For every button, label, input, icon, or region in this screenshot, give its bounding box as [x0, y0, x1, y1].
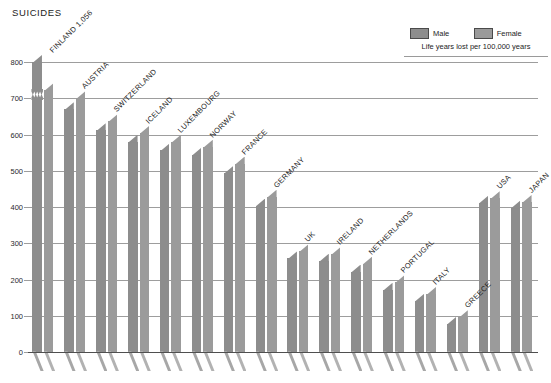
- bar-perspective-foot: [235, 351, 246, 371]
- bar-top-bevel: [128, 135, 138, 143]
- bar-perspective-foot: [511, 351, 522, 371]
- bar-face: [522, 202, 532, 352]
- axis-baseline: [28, 352, 538, 353]
- bar-wrapper: [383, 62, 393, 352]
- bar-switzerland-male[interactable]: [96, 130, 106, 352]
- y-axis-tick-label: 700: [10, 94, 23, 103]
- bar-perspective-foot: [415, 351, 426, 371]
- bar-italy-female[interactable]: [426, 294, 436, 352]
- bar-perspective-foot: [479, 351, 490, 371]
- bar-wrapper: [447, 62, 457, 352]
- bar-wrapper: [415, 62, 425, 352]
- bar-france-male[interactable]: [224, 173, 234, 352]
- bar-uk-male[interactable]: [287, 258, 297, 352]
- y-axis-tick-label: 300: [10, 239, 23, 248]
- bar-top-bevel: [44, 83, 54, 91]
- bar-greece-male[interactable]: [447, 324, 457, 352]
- bar-ireland-female[interactable]: [331, 254, 341, 352]
- bar-iceland-male[interactable]: [128, 142, 138, 352]
- bar-face: [192, 155, 202, 352]
- bar-wrapper: [479, 62, 489, 352]
- page-title: SUICIDES: [12, 7, 62, 18]
- bar-face: [426, 294, 436, 352]
- bars-layer: [28, 62, 538, 352]
- bar-wrapper: [522, 62, 532, 352]
- bar-wrapper: [256, 62, 266, 352]
- legend-row: Male Female: [410, 27, 542, 40]
- bar-perspective-foot: [32, 351, 43, 371]
- bar-portugal-male[interactable]: [383, 290, 393, 352]
- bar-perspective-foot: [331, 351, 342, 371]
- bar-perspective-foot: [96, 351, 107, 371]
- bar-top-bevel: [140, 126, 150, 134]
- bar-face: [160, 150, 170, 352]
- bar-switzerland-female[interactable]: [108, 121, 118, 352]
- bar-face: [395, 282, 405, 352]
- legend-swatch-icon: [410, 28, 429, 39]
- bar-wrapper: [299, 62, 309, 352]
- bar-germany-female[interactable]: [267, 197, 277, 352]
- bar-perspective-foot: [351, 351, 362, 371]
- bar-top-bevel: [76, 91, 86, 99]
- bar-perspective-foot: [44, 351, 55, 371]
- bar-luxembourg-female[interactable]: [171, 142, 181, 352]
- bar-face: [224, 173, 234, 352]
- bar-face: [267, 197, 277, 352]
- bar-perspective-foot: [171, 351, 182, 371]
- bar-wrapper: [44, 62, 54, 352]
- bar-austria-male[interactable]: [64, 109, 74, 352]
- bar-face: [351, 272, 361, 352]
- bar-usa-female[interactable]: [490, 198, 500, 352]
- bar-perspective-foot: [395, 351, 406, 371]
- bar-face: [287, 258, 297, 352]
- bar-perspective-foot: [108, 351, 119, 371]
- bar-perspective-foot: [203, 351, 214, 371]
- bar-perspective-foot: [490, 351, 501, 371]
- bar-perspective-foot: [140, 351, 151, 371]
- bar-perspective-foot: [64, 351, 75, 371]
- bar-japan-female[interactable]: [522, 202, 532, 352]
- bar-perspective-foot: [128, 351, 139, 371]
- bar-wrapper: [287, 62, 297, 352]
- bar-finland-female[interactable]: [44, 90, 54, 352]
- bar-wrapper: [511, 62, 521, 352]
- bar-face: [479, 203, 489, 352]
- legend-item-female[interactable]: Female: [474, 28, 542, 39]
- bar-luxembourg-male[interactable]: [160, 150, 170, 352]
- bar-iceland-female[interactable]: [140, 133, 150, 352]
- bar-italy-male[interactable]: [415, 301, 425, 352]
- bar-japan-male[interactable]: [511, 208, 521, 352]
- bar-norway-female[interactable]: [203, 147, 213, 352]
- bar-germany-male[interactable]: [256, 206, 266, 352]
- legend-divider: [404, 56, 548, 57]
- bar-face: [415, 301, 425, 352]
- bar-france-female[interactable]: [235, 164, 245, 353]
- bar-face: [511, 208, 521, 352]
- bar-perspective-foot: [383, 351, 394, 371]
- bar-top-bevel: [171, 135, 181, 143]
- bar-netherlands-male[interactable]: [351, 272, 361, 352]
- bar-face: [64, 109, 74, 352]
- bar-greece-female[interactable]: [458, 317, 468, 352]
- bar-portugal-female[interactable]: [395, 282, 405, 352]
- bar-usa-male[interactable]: [479, 203, 489, 352]
- bar-face: [76, 98, 86, 352]
- bar-netherlands-female[interactable]: [363, 264, 373, 352]
- bar-uk-female[interactable]: [299, 251, 309, 352]
- legend-swatch-icon: [474, 28, 493, 39]
- axis-break-zigzag-icon: [31, 89, 43, 100]
- bar-finland-male[interactable]: [32, 62, 42, 352]
- bar-wrapper: [319, 62, 329, 352]
- bar-top-bevel: [108, 114, 118, 122]
- bar-face: [128, 142, 138, 352]
- bar-wrapper: [395, 62, 405, 352]
- legend-item-male[interactable]: Male: [410, 28, 470, 39]
- bar-face: [299, 251, 309, 352]
- zigzag-lower: [31, 94, 43, 100]
- bar-wrapper: [426, 62, 436, 352]
- bar-norway-male[interactable]: [192, 155, 202, 352]
- bar-austria-female[interactable]: [76, 98, 86, 352]
- bar-ireland-male[interactable]: [319, 261, 329, 352]
- y-axis-tick-label: 600: [10, 130, 23, 139]
